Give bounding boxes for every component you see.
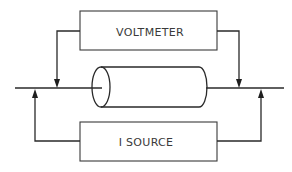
- current-source-block: I SOURCE: [80, 122, 217, 161]
- voltmeter-label: VOLTMETER: [116, 26, 184, 39]
- current-source-label: I SOURCE: [119, 136, 174, 149]
- voltmeter-right-lead: [217, 31, 239, 80]
- diagram-canvas: VOLTMETER I SOURCE: [0, 0, 292, 172]
- current-source-left-arrow-icon: [32, 89, 38, 98]
- cylinder-left-cap: [92, 67, 110, 107]
- voltmeter-left-lead: [57, 31, 80, 80]
- voltmeter-block: VOLTMETER: [80, 11, 217, 50]
- current-source-right-arrow-icon: [258, 89, 264, 98]
- voltmeter-right-arrow-icon: [236, 79, 242, 88]
- current-source-right-lead: [217, 97, 261, 141]
- voltmeter-left-arrow-icon: [54, 79, 60, 88]
- cylinder-body: [101, 67, 207, 107]
- current-source-left-lead: [35, 97, 80, 141]
- cylinder-sample: [92, 67, 207, 107]
